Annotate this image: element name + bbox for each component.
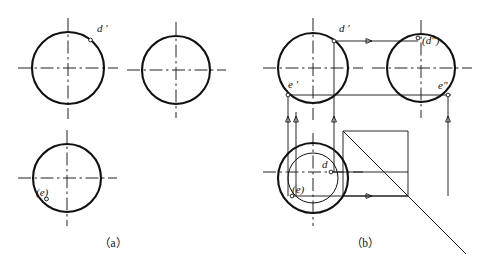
point-e-prime-marker <box>286 93 290 97</box>
vertical-projection-rays <box>286 41 451 196</box>
label-d-prime: d ′ <box>97 22 108 34</box>
label-d-prime: d ′ <box>339 22 350 34</box>
panel-a-group: d ′ (e) （a） <box>18 18 226 249</box>
point-d-prime-marker <box>332 39 336 43</box>
panel-a-top-view: (e) <box>18 130 117 226</box>
label-e-paren: (e) <box>292 183 305 196</box>
label-d: d <box>322 158 328 170</box>
label-e-double-prime: e″ <box>438 79 448 91</box>
panel-b-side-view: (d″) e″ <box>372 20 472 118</box>
point-d-double-prime-marker <box>416 36 420 40</box>
caption-a: （a） <box>99 237 126 249</box>
point-e-double-prime-marker <box>446 93 450 97</box>
panel-b-top-view: d (e) <box>263 133 363 226</box>
panel-b-group: d ′ e ′ (d″) e″ d <box>263 18 472 254</box>
caption-b: （b） <box>351 237 379 249</box>
panel-b-front-view: d ′ e ′ <box>263 18 363 120</box>
point-d-marker <box>329 170 333 174</box>
panel-a-side-view <box>127 22 226 118</box>
point-d-prime-marker <box>89 38 93 42</box>
engineering-drawing-figure: d ′ (e) （a） <box>0 0 486 264</box>
horizontal-projection-rays <box>288 39 451 199</box>
label-e-paren: (e) <box>36 186 49 199</box>
label-e-prime: e ′ <box>288 78 299 90</box>
projection-drawing-svg: d ′ (e) （a） <box>0 0 486 264</box>
label-d-double-prime: (d″) <box>422 34 440 47</box>
panel-a-front-view: d ′ <box>18 18 118 119</box>
